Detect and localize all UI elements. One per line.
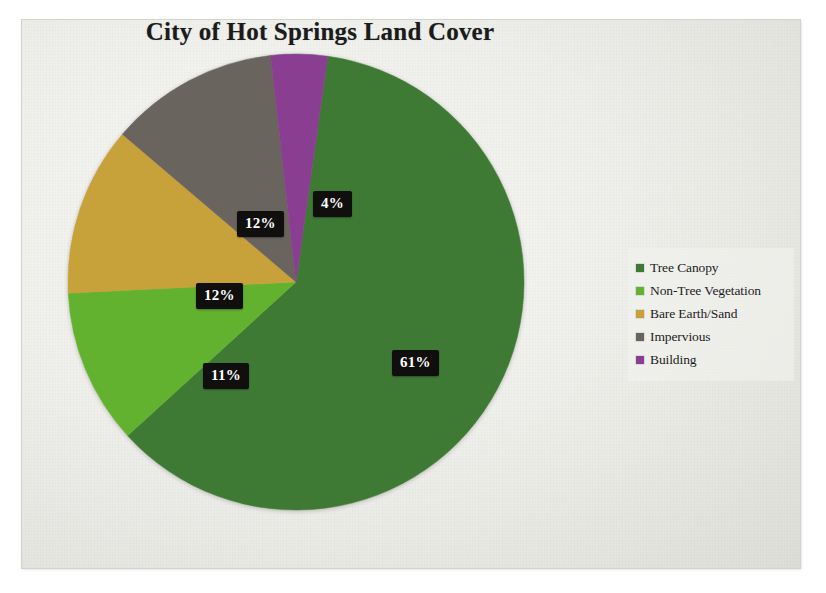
pie-chart (66, 52, 526, 512)
legend-item-label: Impervious (650, 329, 711, 345)
data-label-non-tree-vegetation: 11% (203, 363, 249, 389)
data-label-tree-canopy: 61% (392, 350, 439, 376)
data-label-bare-earth-sand: 12% (196, 283, 243, 309)
chart-screenshot: City of Hot Springs Land Cover 61% 11% 1… (0, 0, 826, 593)
data-label-building: 4% (313, 191, 352, 217)
pie-svg (66, 52, 526, 512)
legend-item-label: Tree Canopy (650, 260, 719, 276)
legend-swatch-icon (636, 287, 644, 295)
legend-swatch-icon (636, 264, 644, 272)
legend-swatch-icon (636, 310, 644, 318)
legend-item[interactable]: Building (636, 348, 788, 371)
data-label-impervious: 12% (237, 211, 284, 237)
legend-swatch-icon (636, 333, 644, 341)
chart-title: City of Hot Springs Land Cover (0, 18, 640, 46)
legend-item[interactable]: Tree Canopy (636, 256, 788, 279)
legend-item-label: Building (650, 352, 696, 368)
legend-item-label: Non-Tree Vegetation (650, 283, 761, 299)
legend-swatch-icon (636, 356, 644, 364)
legend-item[interactable]: Non-Tree Vegetation (636, 279, 788, 302)
legend-item[interactable]: Impervious (636, 325, 788, 348)
legend-item[interactable]: Bare Earth/Sand (636, 302, 788, 325)
chart-legend: Tree CanopyNon-Tree VegetationBare Earth… (628, 248, 794, 381)
pie-slices (68, 54, 524, 510)
legend-item-label: Bare Earth/Sand (650, 306, 737, 322)
